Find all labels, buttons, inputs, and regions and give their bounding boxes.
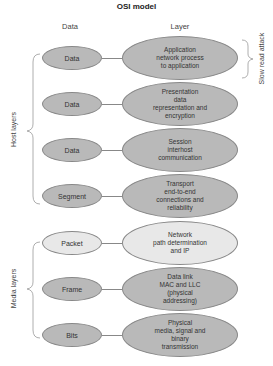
brace-icon — [0, 0, 273, 366]
annotation-slow-read-attack: Slow read attack — [258, 29, 265, 89]
group-label-media-layers: Media layers — [10, 264, 17, 314]
group-label-host-layers: Host layers — [10, 105, 17, 155]
